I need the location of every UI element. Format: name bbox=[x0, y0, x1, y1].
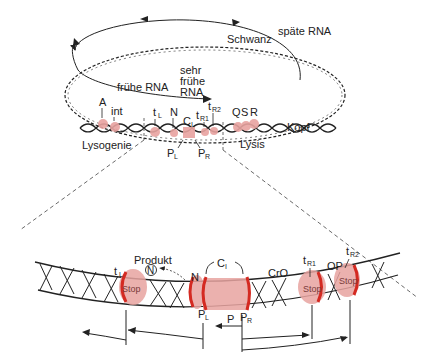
label-P: P bbox=[227, 313, 234, 325]
svg-text:Stop: Stop bbox=[339, 276, 358, 286]
svg-text:L: L bbox=[174, 153, 178, 160]
svg-text:R: R bbox=[247, 317, 252, 324]
lambda-phage-gene-map: späte RNA Schwanz frühe RNA sehr frühe R… bbox=[0, 0, 421, 357]
product-symbol-N: N bbox=[147, 265, 154, 276]
label-OP: OP bbox=[327, 260, 343, 272]
stop-tR1: Stop bbox=[298, 270, 326, 304]
svg-text:R: R bbox=[205, 153, 210, 160]
label-tR1: t bbox=[303, 254, 306, 266]
gene-tR1: t bbox=[196, 109, 199, 121]
label-head: Kopf bbox=[287, 121, 311, 133]
label-early-rna: frühe RNA bbox=[117, 81, 169, 93]
svg-text:I: I bbox=[191, 121, 193, 128]
gene-N: N bbox=[170, 106, 178, 118]
svg-text:L: L bbox=[158, 112, 162, 119]
gene-int: int bbox=[111, 105, 123, 117]
gene-R: R bbox=[250, 106, 258, 118]
label-late-rna: späte RNA bbox=[278, 25, 332, 37]
label-CrO: CrO bbox=[268, 267, 289, 279]
enlarged-segment: Stop Stop Stop Produkt N t L N C I bbox=[35, 245, 400, 352]
label-very-early-3: RNA bbox=[180, 86, 204, 98]
svg-text:Stop: Stop bbox=[303, 284, 322, 294]
label-lysogeny: Lysogenie bbox=[82, 139, 132, 151]
svg-text:L: L bbox=[205, 314, 209, 321]
gene-Q: Q bbox=[232, 106, 241, 118]
label-tail: Schwanz bbox=[227, 33, 272, 45]
gene-A: A bbox=[99, 96, 107, 108]
stop-tL: Stop bbox=[119, 269, 147, 305]
gene-S: S bbox=[241, 106, 248, 118]
svg-text:R1: R1 bbox=[307, 260, 316, 267]
svg-text:I: I bbox=[225, 263, 227, 270]
svg-text:Stop: Stop bbox=[122, 284, 141, 294]
gene-CI-block bbox=[203, 277, 250, 310]
svg-text:R2: R2 bbox=[350, 251, 359, 258]
svg-text:R1: R1 bbox=[200, 115, 209, 122]
svg-text:L: L bbox=[119, 271, 123, 278]
label-lysis: Lysis bbox=[240, 138, 265, 150]
svg-text:R2: R2 bbox=[212, 106, 221, 113]
label-tL: t bbox=[114, 265, 117, 277]
gene-CI: C bbox=[183, 115, 191, 127]
gene-tL: t bbox=[153, 106, 156, 118]
label-N: N bbox=[191, 271, 199, 283]
label-CI: C bbox=[217, 257, 225, 269]
label-tR2: t bbox=[346, 245, 349, 257]
gene-tR2: t bbox=[208, 100, 211, 112]
